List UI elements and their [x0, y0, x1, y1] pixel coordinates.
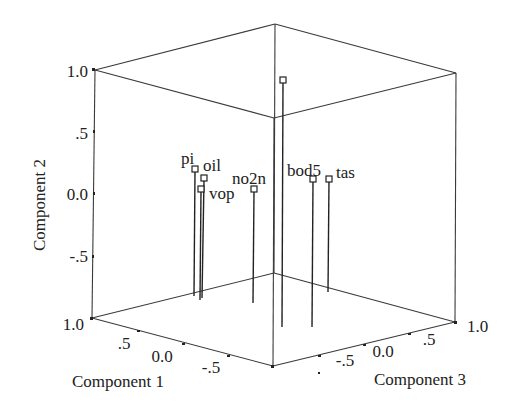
point-label-tas: tas	[336, 163, 355, 182]
z-tick-2: 0.0	[372, 342, 393, 361]
x-tick-1: 1.0	[63, 315, 84, 334]
z-axis-label: Component 3	[374, 370, 466, 389]
y-tick-2: .5	[75, 124, 88, 143]
z-tick-1: -.5	[336, 351, 354, 370]
x-tick-4: -.5	[202, 358, 220, 377]
z-tick-3: .5	[423, 330, 436, 349]
point-label-oil: oil	[203, 156, 221, 175]
point-label-no2n: no2n	[232, 169, 267, 188]
x-axis-label: Component 1	[72, 372, 164, 391]
y-tick-1: 1.0	[67, 62, 88, 81]
point-label-pi: pi	[181, 149, 195, 168]
point-vop-marker	[198, 186, 204, 192]
z-tick-4: 1.0	[467, 317, 488, 336]
z-axis-ticks: -.5 0.0 .5 1.0	[336, 317, 488, 370]
y-tick-4: -.5	[70, 247, 88, 266]
y-axis-ticks: 1.0 .5 0.0 -.5	[67, 62, 88, 266]
y-axis-label: Component 2	[30, 159, 49, 251]
point-oil-marker	[201, 175, 207, 181]
y-tick-3: 0.0	[67, 185, 88, 204]
point-label-bod5: bod5	[287, 161, 321, 180]
3d-scatter-plot: 1.0 .5 0.0 -.5 Component 2 1.0 .5 0.0 -.…	[0, 0, 515, 416]
x-tick-2: .5	[118, 334, 131, 353]
x-tick-3: 0.0	[151, 347, 172, 366]
point-unlabeled-marker	[280, 77, 286, 83]
point-tas-marker	[326, 176, 332, 182]
box-frame	[92, 24, 456, 366]
point-label-vop: vop	[209, 184, 235, 203]
